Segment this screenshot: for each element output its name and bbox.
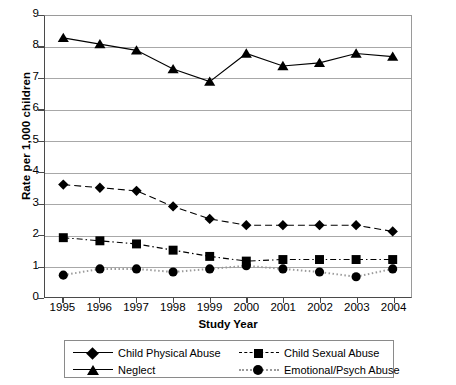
series-child-physical-abuse xyxy=(58,179,398,236)
x-axis-tick-mark xyxy=(246,298,247,303)
data-point xyxy=(242,261,251,270)
y-axis-tick-label: 6 xyxy=(17,102,39,113)
data-point xyxy=(131,186,141,196)
y-axis-tick-mark xyxy=(38,172,44,173)
y-axis-tick-label: 4 xyxy=(17,165,39,176)
series-line xyxy=(63,185,392,232)
series-neglect xyxy=(58,33,399,86)
chart-legend: Child Physical Abuse Neglect Child Sexua… xyxy=(64,340,394,378)
data-point xyxy=(388,255,397,264)
y-axis-tick-mark xyxy=(38,109,44,110)
y-axis-tick-label: 9 xyxy=(17,8,39,19)
legend-item-child-physical-abuse: Child Physical Abuse xyxy=(73,344,221,361)
data-point xyxy=(169,246,178,255)
data-point xyxy=(278,255,287,264)
legend-key-triangle xyxy=(73,363,113,377)
data-point xyxy=(278,220,288,230)
data-point xyxy=(204,76,215,85)
series-line xyxy=(63,238,392,261)
x-axis-tick-mark xyxy=(283,298,284,303)
series-layer xyxy=(45,16,411,297)
data-point xyxy=(315,255,324,264)
y-axis-tick-label: 0 xyxy=(17,291,39,302)
data-point xyxy=(59,271,68,280)
x-axis-tick-mark xyxy=(394,298,395,303)
data-point xyxy=(278,264,287,273)
y-axis-tick-label: 3 xyxy=(17,197,39,208)
x-axis-tick-mark xyxy=(320,298,321,303)
data-point xyxy=(95,236,104,245)
x-axis-tick-mark xyxy=(99,298,100,303)
data-point xyxy=(205,252,214,261)
data-point xyxy=(95,183,105,193)
chart-container: Rate per 1,000 children 0123456789 19951… xyxy=(0,0,456,385)
y-axis-tick-label: 2 xyxy=(17,228,39,239)
legend-key-circle xyxy=(239,363,279,377)
series-child-sexual-abuse xyxy=(59,233,397,265)
data-point xyxy=(352,272,361,281)
y-axis-tick-mark xyxy=(38,141,44,142)
data-point xyxy=(58,179,68,189)
data-point xyxy=(95,264,104,273)
data-point xyxy=(132,264,141,273)
legend-key-diamond xyxy=(73,346,113,360)
y-axis-tick-mark xyxy=(38,46,44,47)
x-axis-tick-mark xyxy=(173,298,174,303)
plot-area xyxy=(44,15,412,298)
data-point xyxy=(352,255,361,264)
data-point xyxy=(59,233,68,242)
data-point xyxy=(168,64,179,73)
legend-label: Emotional/Psych Abuse xyxy=(279,364,400,376)
data-point xyxy=(205,264,214,273)
series-emotional-psych-abuse xyxy=(59,261,398,281)
data-point xyxy=(169,267,178,276)
x-axis-tick-mark xyxy=(136,298,137,303)
legend-item-neglect: Neglect xyxy=(73,361,155,378)
x-axis-tick-mark xyxy=(357,298,358,303)
data-point xyxy=(315,267,324,276)
data-point xyxy=(388,226,398,236)
y-axis-tick-label: 8 xyxy=(17,39,39,50)
data-point xyxy=(241,220,251,230)
y-axis-tick-mark xyxy=(38,15,44,16)
x-axis-tick-mark xyxy=(210,298,211,303)
y-axis-tick-mark xyxy=(38,204,44,205)
data-point xyxy=(58,33,69,42)
y-axis-tick-mark xyxy=(38,298,44,299)
y-axis-tick-label: 7 xyxy=(17,71,39,82)
data-point xyxy=(132,239,141,248)
legend-label: Child Physical Abuse xyxy=(113,347,221,359)
data-point xyxy=(388,264,397,273)
y-axis-tick-mark xyxy=(38,267,44,268)
legend-key-square xyxy=(239,346,279,360)
series-line xyxy=(63,38,392,82)
legend-item-child-sexual-abuse: Child Sexual Abuse xyxy=(239,344,379,361)
x-axis-title: Study Year xyxy=(44,318,412,330)
series-line xyxy=(63,266,392,277)
data-point xyxy=(351,48,362,57)
y-axis-tick-label: 1 xyxy=(17,260,39,271)
x-axis-tick-mark xyxy=(62,298,63,303)
data-point xyxy=(205,214,215,224)
data-point xyxy=(351,220,361,230)
y-axis-tick-label: 5 xyxy=(17,134,39,145)
y-axis-tick-mark xyxy=(38,235,44,236)
legend-label: Neglect xyxy=(113,364,155,376)
data-point xyxy=(168,201,178,211)
data-point xyxy=(241,48,252,57)
legend-item-emotional-psych-abuse: Emotional/Psych Abuse xyxy=(239,361,400,378)
legend-label: Child Sexual Abuse xyxy=(279,347,379,359)
y-axis-tick-mark xyxy=(38,78,44,79)
data-point xyxy=(314,220,324,230)
